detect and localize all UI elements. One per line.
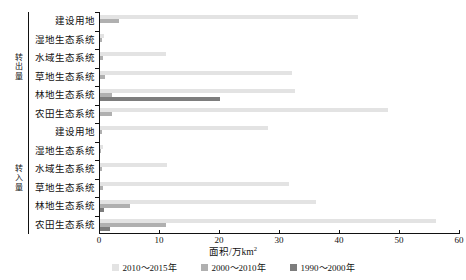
x-axis-tick [399,230,400,234]
legend-label: 1990～2000年 [301,261,355,274]
legend-label: 2000～2010年 [212,261,266,274]
legend-swatch-icon [290,264,297,271]
plot-area: 0102030405060 [99,12,459,234]
y-axis-tick [95,216,99,217]
y-axis-tick [95,68,99,69]
group-axis-label-transfer-out: 转出量 [12,53,26,82]
x-axis-tick [459,230,460,234]
legend-label: 2010～2015年 [123,261,177,274]
bar [100,108,388,112]
bar [100,15,358,19]
y-axis-tick [95,142,99,143]
bar [100,97,220,101]
bar [100,75,105,79]
y-axis-tick [95,12,99,13]
x-axis-tick [219,230,220,234]
legend-item: 1990～2000年 [290,261,355,274]
bar [100,126,268,130]
category-label: 湿地生态系统 [35,142,98,160]
y-axis-tick [95,123,99,124]
y-axis-tick [95,105,99,106]
bar [100,208,104,212]
bar [100,182,289,186]
group-axis-label-transfer-in: 转入量 [12,164,26,193]
bar [100,186,103,190]
bar [100,149,101,153]
bar [100,223,166,227]
category-label: 农田生态系统 [35,105,98,123]
bar [100,89,295,93]
y-axis-tick [95,160,99,161]
category-label: 建设用地 [55,12,98,30]
category-label: 林地生态系统 [35,86,98,104]
category-label: 草地生态系统 [35,68,98,86]
category-label: 湿地生态系统 [35,31,98,49]
category-label: 草地生态系统 [35,179,98,197]
bar [100,167,102,171]
category-label: 水域生态系统 [35,49,98,67]
legend-item: 2010～2015年 [112,261,177,274]
x-axis-tick [339,230,340,234]
category-label: 林地生态系统 [35,197,98,215]
category-label: 建设用地 [55,123,98,141]
legend-swatch-icon [112,264,119,271]
legend-swatch-icon [201,264,208,271]
bar [100,227,110,231]
legend-item: 2000～2010年 [201,261,266,274]
bar [100,130,102,134]
bar [100,56,103,60]
category-axis: 建设用地湿地生态系统水域生态系统草地生态系统林地生态系统农田生态系统建设用地湿地… [30,0,98,280]
category-label: 水域生态系统 [35,160,98,178]
group-spine-transfer-in [28,123,29,234]
group-spine-transfer-out [28,12,29,123]
bar [100,19,119,23]
bar [100,204,130,208]
bar [100,163,167,167]
y-axis-tick [95,31,99,32]
x-axis-tick [279,230,280,234]
bar [100,52,166,56]
x-axis-title: 面积/万km2 [0,244,466,258]
y-axis-tick [95,197,99,198]
bar [100,112,112,116]
bar [100,71,292,75]
y-axis-tick [95,86,99,87]
bar-chart: 转出量 转入量 建设用地湿地生态系统水域生态系统草地生态系统林地生态系统农田生态… [0,0,466,280]
y-axis-tick [95,179,99,180]
category-label: 农田生态系统 [35,216,98,234]
bar [100,200,316,204]
legend: 2010～2015年2000～2010年1990～2000年 [0,261,466,274]
x-axis-tick [159,230,160,234]
y-axis-tick [95,49,99,50]
bar [100,38,102,42]
